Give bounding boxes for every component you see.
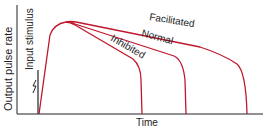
lightning-icon	[33, 80, 36, 93]
y-axis-label: Output pulse rate	[2, 27, 14, 111]
curve-inhibited	[66, 22, 142, 114]
stimulus-label: Input stimulus	[24, 8, 35, 70]
label-normal: Normal	[140, 27, 174, 46]
pulse-rate-diagram: Output pulse rate Input stimulus Time Fa…	[0, 0, 263, 129]
label-facilitated: Facilitated	[149, 11, 196, 29]
x-axis-label: Time	[136, 117, 158, 128]
